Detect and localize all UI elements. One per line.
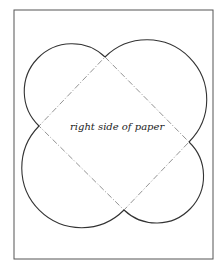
envelope-template-diagram [0, 0, 223, 269]
paper-side-label: right side of paper [70, 121, 170, 132]
fold-line-diamond [39, 57, 189, 210]
petal-top-left [24, 44, 105, 126]
petal-bottom-right [124, 142, 204, 223]
petal-bottom-left [22, 126, 124, 228]
paper-frame [14, 10, 213, 259]
